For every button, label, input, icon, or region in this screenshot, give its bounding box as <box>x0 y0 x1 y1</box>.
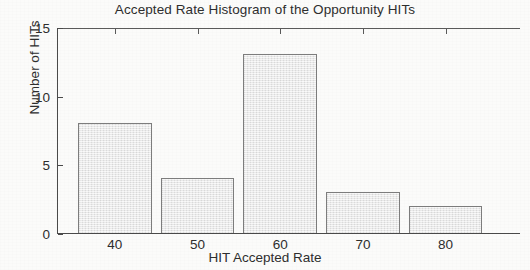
histogram-bar <box>243 54 317 233</box>
histogram-figure: Accepted Rate Histogram of the Opportuni… <box>0 0 530 270</box>
y-axis-spine <box>57 28 58 234</box>
y-tick-mark <box>58 234 63 235</box>
y-tick-label: 10 <box>35 89 50 104</box>
x-tick-mark-top <box>115 29 116 34</box>
y-tick-label: 0 <box>42 227 50 242</box>
x-tick-label: 40 <box>107 237 122 252</box>
x-tick-label: 60 <box>273 237 288 252</box>
y-tick-label: 15 <box>35 21 50 36</box>
x-tick-label: 50 <box>190 237 205 252</box>
x-tick-mark-top <box>198 29 199 34</box>
y-tick-label: 5 <box>42 158 50 173</box>
histogram-bar <box>409 206 483 233</box>
x-tick-label: 70 <box>355 237 370 252</box>
y-tick-mark <box>58 28 63 29</box>
histogram-bar <box>78 123 152 233</box>
x-tick-label: 80 <box>438 237 453 252</box>
x-axis-spine <box>57 233 520 234</box>
chart-title: Accepted Rate Histogram of the Opportuni… <box>0 2 530 17</box>
x-tick-mark-top <box>363 29 364 34</box>
axis-top-spine <box>57 28 520 29</box>
x-tick-mark-top <box>446 29 447 34</box>
x-axis-label: HIT Accepted Rate <box>0 250 530 265</box>
histogram-bar <box>161 178 235 233</box>
y-tick-mark <box>58 165 63 166</box>
histogram-bar <box>326 192 400 233</box>
y-tick-mark <box>58 97 63 98</box>
x-tick-mark-top <box>280 29 281 34</box>
plot-area: 051015 4050607080 <box>57 28 520 234</box>
